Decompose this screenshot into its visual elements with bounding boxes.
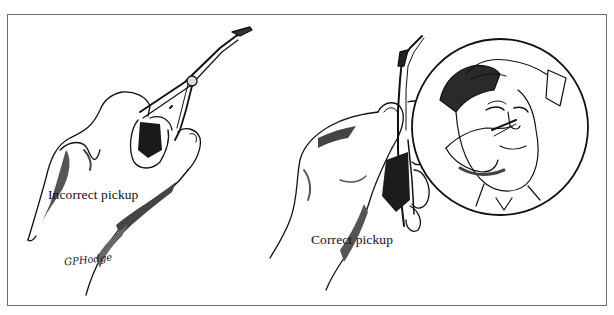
correct-hand-drawing: [270, 36, 429, 290]
correct-pickup-caption: Correct pickup: [311, 232, 393, 248]
incorrect-hand-drawing: [28, 27, 252, 295]
patient-inset: [412, 39, 588, 215]
incorrect-pickup-caption: Incorrect pickup: [48, 187, 138, 203]
forceps-icon: [140, 27, 252, 140]
illustration-art: [0, 0, 614, 315]
